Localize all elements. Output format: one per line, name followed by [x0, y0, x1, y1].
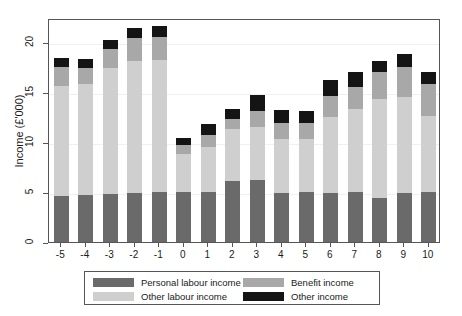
y-tick-label: 5 [24, 179, 35, 205]
x-tick-label-10: 10 [416, 249, 440, 260]
bar-segment-3-series-2 [250, 111, 265, 127]
y-tick-mark [43, 143, 48, 144]
bar-segment-6-series-0 [323, 193, 338, 242]
bar-segment--3-series-1 [103, 68, 118, 194]
bar-segment-7-series-1 [348, 109, 363, 192]
income-stacked-bar-chart: Income (£'000) -5-4-3-2-1012345678910 Pe… [0, 0, 462, 316]
x-tick-label-0: 0 [171, 249, 195, 260]
bar-segment--2-series-1 [127, 61, 142, 193]
bar-segment-6-series-3 [323, 80, 338, 96]
x-tick-label--2: -2 [122, 249, 146, 260]
bar-segment-3-series-1 [250, 127, 265, 180]
legend-label: Personal labour income [141, 277, 241, 288]
x-tick-label-3: 3 [244, 249, 268, 260]
x-tick-mark [60, 243, 61, 247]
bar-10 [421, 19, 436, 242]
legend-label: Other labour income [141, 291, 227, 302]
bar-segment-4-series-3 [274, 110, 289, 123]
x-tick-mark [85, 243, 86, 247]
bar-segment-2-series-3 [225, 109, 240, 119]
y-tick-label: 15 [24, 79, 35, 105]
bar-segment--2-series-2 [127, 38, 142, 61]
bar-2 [225, 19, 240, 242]
bar-segment-4-series-0 [274, 193, 289, 242]
bar-6 [323, 19, 338, 242]
legend-swatch [93, 278, 134, 287]
bar-segment-10-series-3 [421, 72, 436, 84]
bar-segment-8-series-1 [372, 99, 387, 198]
bar-segment-0-series-3 [176, 138, 191, 145]
bar-segment-6-series-1 [323, 117, 338, 193]
bar-segment-4-series-1 [274, 139, 289, 193]
bar-segment-0-series-0 [176, 192, 191, 242]
bar-segment--1-series-0 [152, 192, 167, 242]
y-tick-mark [43, 243, 48, 244]
bar-segment-5-series-3 [299, 111, 314, 123]
x-tick-label--1: -1 [146, 249, 170, 260]
x-tick-label--4: -4 [73, 249, 97, 260]
bar--2 [127, 19, 142, 242]
bar-segment--3-series-2 [103, 49, 118, 68]
x-tick-label-8: 8 [367, 249, 391, 260]
legend-swatch [93, 292, 134, 301]
bar-7 [348, 19, 363, 242]
x-tick-mark [281, 243, 282, 247]
x-tick-mark [428, 243, 429, 247]
bar-segment-5-series-0 [299, 192, 314, 242]
bar-segment-3-series-0 [250, 180, 265, 242]
x-tick-label-6: 6 [318, 249, 342, 260]
bar-segment--5-series-2 [54, 67, 69, 86]
bar-0 [176, 19, 191, 242]
bar-segment-2-series-0 [225, 181, 240, 242]
y-tick-mark [43, 43, 48, 44]
legend-swatch [243, 292, 284, 301]
bar-segment--4-series-0 [78, 195, 93, 242]
y-tick-label: 20 [24, 29, 35, 55]
bar-4 [274, 19, 289, 242]
bar-segment-1-series-0 [201, 192, 216, 242]
bar--5 [54, 19, 69, 242]
legend-swatch [243, 278, 284, 287]
bar-segment--4-series-1 [78, 84, 93, 195]
bar-segment-7-series-2 [348, 87, 363, 109]
bar-segment--1-series-2 [152, 37, 167, 60]
bar--4 [78, 19, 93, 242]
x-tick-label-1: 1 [195, 249, 219, 260]
bar-3 [250, 19, 265, 242]
bar-segment--1-series-3 [152, 26, 167, 37]
bar-segment-2-series-2 [225, 119, 240, 129]
bar-segment-8-series-3 [372, 61, 387, 72]
legend-label: Benefit income [291, 277, 354, 288]
legend-entry: Other income [243, 290, 348, 303]
bar-9 [397, 19, 412, 242]
bar-segment--4-series-3 [78, 59, 93, 68]
bar-segment--2-series-3 [127, 28, 142, 38]
bar-segment-0-series-1 [176, 154, 191, 192]
bar-segment-10-series-2 [421, 84, 436, 116]
bar-segment-9-series-3 [397, 54, 412, 67]
bar-segment-9-series-1 [397, 97, 412, 193]
bar-segment-6-series-2 [323, 96, 338, 117]
bar-segment--4-series-2 [78, 68, 93, 84]
bar-segment-1-series-1 [201, 147, 216, 192]
bar--1 [152, 19, 167, 242]
bar-segment-10-series-0 [421, 192, 436, 242]
x-tick-mark [134, 243, 135, 247]
legend-entry: Benefit income [243, 276, 354, 289]
x-tick-mark [158, 243, 159, 247]
x-tick-mark [207, 243, 208, 247]
bar-segment-4-series-2 [274, 123, 289, 139]
bar-8 [372, 19, 387, 242]
y-tick-label: 0 [24, 229, 35, 255]
y-tick-label: 10 [24, 129, 35, 155]
x-tick-mark [183, 243, 184, 247]
legend-entry: Personal labour income [93, 276, 241, 289]
legend-label: Other income [291, 291, 348, 302]
bar-segment-5-series-1 [299, 139, 314, 192]
x-tick-label-7: 7 [342, 249, 366, 260]
bar-segment-9-series-2 [397, 67, 412, 97]
bar-segment--1-series-1 [152, 60, 167, 192]
bar-segment--2-series-0 [127, 193, 142, 242]
x-tick-mark [109, 243, 110, 247]
bar-1 [201, 19, 216, 242]
